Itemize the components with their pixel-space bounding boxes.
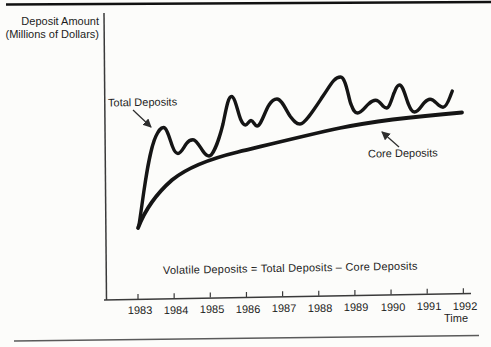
- scanned-figure-page: Deposit Amount (Millions of Dollars) Tot…: [0, 0, 491, 347]
- top-rule-line: [6, 2, 491, 5]
- y-axis-line: [104, 13, 107, 300]
- total-deposits-arrow: [133, 110, 151, 127]
- x-tick-label: 1990: [380, 301, 405, 313]
- x-tick-label: 1992: [453, 300, 478, 312]
- x-axis-title: Time: [444, 312, 468, 325]
- x-tick-label: 1985: [200, 303, 225, 315]
- y-axis-title: Deposit Amount (Millions of Dollars): [0, 15, 99, 40]
- x-tick-label: 1988: [308, 302, 333, 314]
- x-tick-label: 1984: [163, 303, 188, 315]
- x-axis-line: [104, 294, 471, 301]
- core-deposits-curve: [138, 113, 462, 229]
- x-axis-ticks: [138, 288, 463, 299]
- total-deposits-label: Total Deposits: [108, 96, 177, 109]
- x-tick-label: 1987: [272, 302, 297, 314]
- core-deposits-arrow: [382, 132, 399, 147]
- y-axis-title-line1: Deposit Amount: [0, 15, 99, 28]
- x-tick-label: 1983: [127, 304, 152, 316]
- bottom-rule-line: [14, 336, 479, 342]
- y-axis-title-line2: (Millions of Dollars): [0, 28, 99, 41]
- x-tick-label: 1989: [344, 301, 369, 313]
- x-tick-label: 1986: [236, 303, 261, 315]
- deposit-chart-canvas: [0, 0, 491, 347]
- core-deposits-label: Core Deposits: [368, 147, 438, 160]
- x-tick-label: 1991: [416, 300, 441, 312]
